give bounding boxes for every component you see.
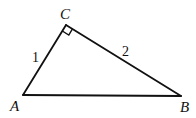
side-ab [23, 95, 181, 96]
vertex-label-a: A [9, 98, 20, 114]
vertex-label-b: B [180, 99, 189, 115]
side-ac [23, 25, 66, 95]
side-cb [66, 25, 181, 96]
vertex-label-c: C [60, 6, 71, 22]
right-triangle-diagram: C A B 1 2 [0, 0, 196, 118]
side-label-ac: 1 [32, 50, 39, 65]
side-label-cb: 2 [122, 44, 129, 59]
